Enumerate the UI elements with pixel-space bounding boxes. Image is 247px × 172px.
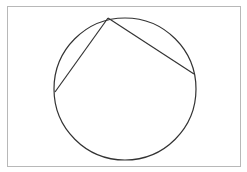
circle: [54, 18, 196, 160]
diagram-frame: [8, 7, 241, 167]
geometry-diagram: [0, 0, 247, 172]
